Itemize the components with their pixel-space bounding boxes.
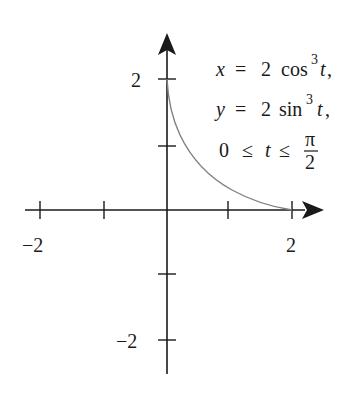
svg-text:,: , <box>325 98 330 120</box>
svg-text:0: 0 <box>219 139 229 161</box>
svg-text:π: π <box>305 128 315 150</box>
svg-text:2: 2 <box>261 98 271 120</box>
y-tick-label-2: 2 <box>131 69 141 91</box>
svg-text:t: t <box>317 98 323 120</box>
svg-text:3: 3 <box>306 92 313 107</box>
equation-x: x = 2 cos 3 t , <box>215 52 332 80</box>
svg-text:y: y <box>214 98 225 121</box>
x-axis-arrow-icon <box>302 201 324 219</box>
svg-text:=: = <box>235 98 246 120</box>
y-tick-label-neg2: −2 <box>116 330 137 352</box>
x-tick-label-2: 2 <box>286 234 296 256</box>
x-tick-label-neg2: −2 <box>22 234 43 256</box>
equation-y: y = 2 sin 3 t , <box>214 92 330 121</box>
svg-text:≤: ≤ <box>242 139 253 161</box>
svg-text:,: , <box>327 58 332 80</box>
svg-text:2: 2 <box>305 151 315 173</box>
svg-text:2: 2 <box>261 58 271 80</box>
svg-text:cos: cos <box>281 58 308 80</box>
parametric-plot: −2 2 2 −2 x = 2 cos 3 t , y = 2 sin 3 t … <box>0 0 353 400</box>
svg-text:t: t <box>265 139 271 161</box>
equation-domain: 0 ≤ t ≤ π 2 <box>219 128 318 173</box>
svg-text:≤: ≤ <box>279 139 290 161</box>
svg-text:=: = <box>235 58 246 80</box>
svg-text:x: x <box>215 58 225 80</box>
astroid-curve <box>167 79 292 210</box>
svg-text:3: 3 <box>311 52 318 67</box>
svg-text:t: t <box>320 58 326 80</box>
svg-text:sin: sin <box>279 98 302 120</box>
